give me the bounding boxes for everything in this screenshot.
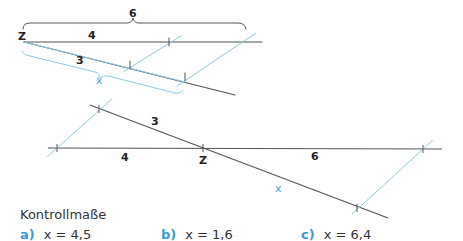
bottom-label-center: Z [199, 155, 207, 166]
geometry-diagram [0, 0, 463, 241]
bottom-label-unknown: x [275, 183, 282, 194]
bottom-label-c: 6 [311, 151, 319, 162]
answer-c-letter: c) [301, 227, 315, 241]
bottom-figure [47, 99, 442, 218]
answer-a-value: x = 4,5 [44, 227, 92, 241]
top-figure [22, 18, 262, 95]
bottom-label-b: 3 [151, 116, 159, 127]
answer-b: b)x = 1,6 [161, 227, 233, 241]
top-label-unknown: x [96, 75, 103, 86]
bottom-label-a: 4 [121, 152, 129, 163]
top-label-center: Z [18, 31, 26, 42]
answer-b-value: x = 1,6 [185, 227, 233, 241]
answer-a: a)x = 4,5 [20, 227, 91, 241]
answer-c-value: x = 6,4 [324, 227, 372, 241]
answer-c: c)x = 6,4 [301, 227, 371, 241]
top-label-a: 4 [88, 30, 96, 41]
top-label-total: 6 [129, 8, 137, 19]
top-label-b: 3 [76, 55, 84, 66]
answer-b-letter: b) [161, 227, 176, 241]
answer-a-letter: a) [20, 227, 35, 241]
answers-title: Kontrollmaße [20, 207, 106, 222]
